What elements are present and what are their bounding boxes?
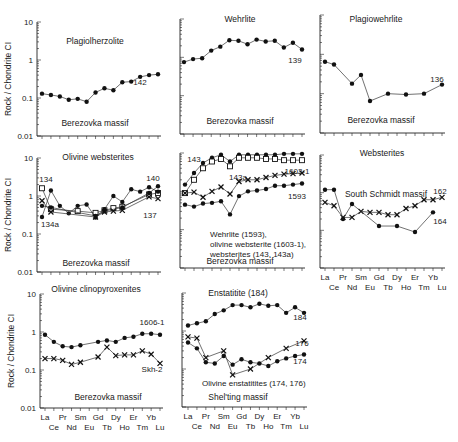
x-tick-label: Sm: [74, 413, 86, 422]
x-tick-label: Ho: [119, 423, 130, 432]
y-tick-label: 10: [24, 154, 33, 163]
ree-figure: 1010.10.01Rock / Chondrite CI142Plagiolh…: [0, 0, 458, 442]
x-tick-label: La: [184, 412, 193, 421]
series-label: 139: [288, 56, 302, 65]
panel-olivine-websterites: 1010.10.01Rock / Chondrite CI134134a1401…: [3, 152, 161, 277]
x-tick-label: Yb: [146, 413, 156, 422]
panel-annotation: olivine websterite (1603-1),: [210, 240, 306, 249]
x-tick-label: Tb: [102, 423, 112, 432]
y-tick-label: 0.1: [22, 94, 34, 103]
y-tick-label: 0.1: [25, 366, 37, 375]
x-tick-label: Tb: [383, 283, 393, 292]
series-line-1593: [185, 184, 302, 215]
panel-title: Plagiowehrlite: [350, 14, 403, 24]
panel-mixed: 143143a1603-11593Berezovka massifWehrlit…: [180, 152, 310, 271]
series-label: 134a: [41, 220, 59, 229]
y-tick-label: 1: [29, 192, 34, 201]
panel-annotation: Olivine enstatitites (174, 176): [202, 379, 306, 388]
x-tick-label: Tm: [418, 283, 430, 292]
panel-subtitle: Berezovka massif: [74, 392, 142, 402]
panel-annotation: Wehrlite (1593),: [210, 230, 267, 239]
panel-plagiolherzolite: 1010.10.01Rock / Chondrite CI142Plagiolh…: [3, 18, 161, 141]
panel-subtitle: South Schmidt massif: [345, 189, 428, 199]
series-label: 136: [430, 75, 444, 84]
panel-enstatitite-184-: LaCePrNdSmEuGdTbDyHoErTmYbLu184176174Ens…: [182, 288, 309, 431]
x-tick-label: Yb: [428, 273, 438, 282]
y-axis-label: Rock / Chondrite CI: [6, 314, 16, 388]
x-tick-label: Tm: [137, 423, 149, 432]
x-tick-label: Dy: [254, 412, 264, 421]
x-tick-label: La: [321, 273, 330, 282]
x-tick-label: Pr: [339, 273, 347, 282]
y-tick-label: 0.01: [17, 132, 33, 141]
x-tick-label: Dy: [392, 273, 402, 282]
series-label: 184: [293, 313, 307, 322]
x-tick-label: Eu: [228, 422, 238, 431]
panel-title: Enstatitite (184): [208, 288, 268, 298]
x-tick-label: Yb: [290, 412, 300, 421]
x-tick-label: Ce: [192, 422, 203, 431]
x-tick-label: Ho: [401, 283, 412, 292]
x-tick-label: Nd: [210, 422, 220, 431]
panel-websterites: LaCePrNdSmEuGdTbDyHoErTmYbLu162164Webste…: [320, 148, 447, 292]
x-tick-label: Lu: [438, 283, 447, 292]
series-label: 1606-1: [140, 318, 165, 327]
panel-title: Olivine websterites: [62, 152, 133, 162]
x-tick-label: Ce: [49, 423, 60, 432]
panel-subtitle: Berezovka massif: [61, 118, 129, 128]
x-tick-label: Eu: [84, 423, 94, 432]
panel-subtitle: Berezovka massif: [62, 258, 130, 268]
series-label: 176: [295, 339, 309, 348]
y-axis-label: Rock / Chondrite CI: [3, 42, 13, 116]
series-label: 137: [143, 211, 157, 220]
x-tick-label: Nd: [66, 423, 76, 432]
x-tick-label: Dy: [111, 413, 121, 422]
x-tick-label: Er: [129, 413, 137, 422]
panel-plagiowehrlite: 136PlagiowehrliteBerezovka massif: [320, 14, 445, 136]
x-tick-label: Eu: [365, 283, 375, 292]
x-tick-label: Tm: [280, 422, 292, 431]
y-tick-label: 0.01: [20, 404, 36, 413]
x-tick-label: Lu: [156, 423, 165, 432]
y-tick-label: 10: [24, 18, 33, 27]
x-tick-label: Pr: [59, 413, 67, 422]
series-line-176: [188, 337, 304, 375]
series-label: 140: [146, 174, 160, 183]
y-tick-label: 0.1: [22, 230, 34, 239]
panel-olivine-clinopyroxenites: 1010.10.01Rock / Chondrite CILaCePrNdSmE…: [6, 284, 165, 432]
y-axis-label: Rock / Chondrite CI: [3, 178, 13, 252]
x-tick-label: Gd: [374, 273, 385, 282]
x-tick-label: Gd: [236, 412, 247, 421]
x-tick-label: Ce: [329, 283, 340, 292]
series-label: 162: [433, 187, 447, 196]
series-label: 164: [433, 217, 447, 226]
panel-title: Wehrlite: [224, 14, 255, 24]
series-label: 143: [187, 155, 201, 164]
x-tick-label: Tb: [246, 422, 256, 431]
y-tick-label: 0.01: [17, 268, 33, 277]
panel-wehrlite: 139WehrliteBerezovka massif: [180, 14, 305, 137]
x-tick-label: Lu: [300, 422, 309, 431]
series-label: 174: [293, 357, 307, 366]
y-tick-label: 1: [29, 56, 34, 65]
series-label: 1603-1: [285, 167, 310, 176]
panel-title: Plagiolherzolite: [66, 36, 124, 46]
x-tick-label: Gd: [93, 413, 104, 422]
panel-title: Olivine clinopyroxenites: [51, 284, 140, 294]
x-tick-label: Ho: [263, 422, 274, 431]
panel-subtitle: Berezovka massif: [347, 115, 415, 125]
x-tick-label: Er: [273, 412, 281, 421]
series-label: 142: [133, 78, 147, 87]
panel-subtitle: Shel'ting massif: [208, 392, 268, 402]
x-tick-label: La: [41, 413, 50, 422]
y-tick-label: 1: [32, 328, 37, 337]
x-tick-label: Nd: [347, 283, 357, 292]
x-tick-label: Sm: [218, 412, 230, 421]
x-tick-label: Er: [411, 273, 419, 282]
series-label: 1593: [288, 192, 306, 201]
series-label: Skh-2: [142, 365, 163, 374]
panel-subtitle: Berezovka massif: [206, 116, 274, 126]
x-tick-label: Sm: [355, 273, 367, 282]
panel-title: Websterites: [360, 148, 405, 158]
series-label: 134: [39, 175, 53, 184]
